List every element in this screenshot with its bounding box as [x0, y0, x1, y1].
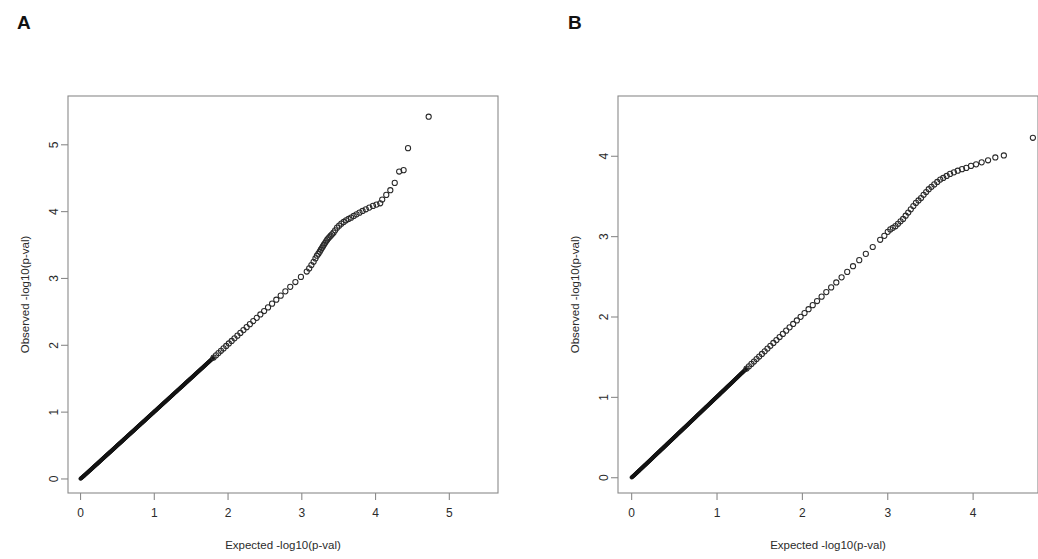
x-axis-title: Expected -log10(p-val) [770, 539, 886, 551]
y-axis-title: Observed -log10(p-val) [569, 236, 581, 354]
data-point [857, 258, 862, 263]
data-point [968, 163, 973, 168]
y-tick-label: 3 [597, 233, 611, 240]
data-point [834, 280, 839, 285]
y-tick-label: 0 [597, 474, 611, 481]
data-point [274, 297, 279, 302]
data-point [283, 289, 288, 294]
data-point [810, 303, 815, 308]
data-point [863, 251, 868, 256]
data-point [845, 269, 850, 274]
x-tick-label: 2 [799, 506, 806, 520]
data-point [974, 162, 979, 167]
data-point [979, 160, 984, 165]
x-tick-label: 1 [714, 506, 721, 520]
data-point [1030, 135, 1035, 140]
data-point [878, 237, 883, 242]
data-point [293, 279, 298, 284]
x-tick-label: 3 [884, 506, 891, 520]
x-tick-label: 3 [298, 506, 305, 520]
data-point [774, 337, 779, 342]
data-point [829, 285, 834, 290]
panel-b-plot: 0123401234Expected -log10(p-val)Observed… [540, 0, 1038, 559]
y-tick-label: 3 [47, 275, 61, 282]
data-point [806, 307, 811, 312]
figure-root: A 012345012345Expected -log10(p-val)Obse… [0, 0, 1038, 559]
y-tick-label: 4 [597, 153, 611, 160]
y-tick-label: 0 [47, 475, 61, 482]
data-point [993, 155, 998, 160]
x-tick-label: 4 [970, 506, 977, 520]
data-point [388, 188, 393, 193]
data-point [288, 284, 293, 289]
y-axis-title: Observed -log10(p-val) [19, 236, 31, 354]
y-tick-label: 4 [47, 208, 61, 215]
data-point [278, 293, 283, 298]
data-point [298, 274, 303, 279]
x-tick-label: 5 [446, 506, 453, 520]
panel-b: B 0123401234Expected -log10(p-val)Observ… [540, 0, 1038, 559]
data-point [814, 298, 819, 303]
panel-a-plot: 012345012345Expected -log10(p-val)Observ… [0, 0, 540, 559]
x-axis-title: Expected -log10(p-val) [225, 539, 341, 551]
data-point [1001, 153, 1006, 158]
panel-a: A 012345012345Expected -log10(p-val)Obse… [0, 0, 540, 559]
data-point [850, 264, 855, 269]
data-point [870, 244, 875, 249]
x-tick-label: 0 [77, 506, 84, 520]
y-tick-label: 1 [597, 394, 611, 401]
data-point [839, 275, 844, 280]
y-tick-label: 5 [47, 141, 61, 148]
data-point [244, 325, 249, 330]
data-point [777, 334, 782, 339]
data-point [392, 180, 397, 185]
data-point [426, 114, 431, 119]
data-point [405, 146, 410, 151]
y-tick-label: 1 [47, 408, 61, 415]
data-points-group [79, 114, 431, 480]
y-tick-label: 2 [597, 313, 611, 320]
data-point [824, 289, 829, 294]
x-tick-label: 4 [372, 506, 379, 520]
x-tick-label: 0 [628, 506, 635, 520]
x-tick-label: 2 [225, 506, 232, 520]
data-point [384, 192, 389, 197]
data-point [269, 301, 274, 306]
x-tick-label: 1 [151, 506, 158, 520]
data-point [819, 294, 824, 299]
data-points-group [630, 135, 1036, 479]
y-tick-label: 2 [47, 342, 61, 349]
data-point [780, 331, 785, 336]
data-point [985, 158, 990, 163]
data-point [247, 322, 252, 327]
